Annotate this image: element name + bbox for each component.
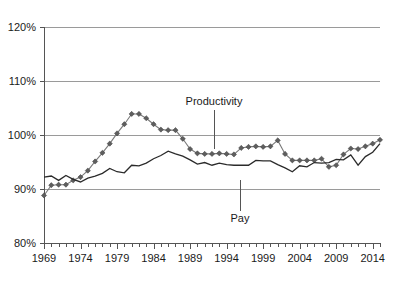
chart-container: 80%90%100%110%120% 196919741979198419891… <box>0 0 397 284</box>
y-tick-label-110: 110% <box>9 75 37 87</box>
x-tick-label-1974: 1974 <box>68 252 92 264</box>
x-tick-label-1994: 1994 <box>214 252 238 264</box>
chart-background <box>0 0 397 284</box>
x-tick-label-1979: 1979 <box>105 252 129 264</box>
y-tick-label-90: 90% <box>14 183 36 195</box>
x-tick-label-1984: 1984 <box>141 252 165 264</box>
x-tick-label-1989: 1989 <box>178 252 202 264</box>
x-tick-label-2009: 2009 <box>324 252 348 264</box>
series-annotation-pay: Pay <box>231 212 250 224</box>
x-tick-label-2004: 2004 <box>287 252 311 264</box>
y-tick-label-80: 80% <box>14 237 36 249</box>
y-tick-label-100: 100% <box>8 129 36 141</box>
x-tick-label-1999: 1999 <box>251 252 275 264</box>
x-tick-label-1969: 1969 <box>32 252 56 264</box>
x-tick-label-2014: 2014 <box>360 252 384 264</box>
productivity-pay-line-chart: 80%90%100%110%120% 196919741979198419891… <box>0 0 397 284</box>
series-annotation-productivity: Productivity <box>186 95 243 107</box>
y-tick-label-120: 120% <box>8 21 36 33</box>
